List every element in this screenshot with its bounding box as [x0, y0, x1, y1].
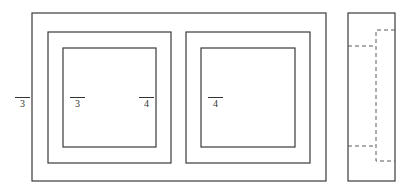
side-view-hidden-lines [348, 30, 395, 161]
section-label-3-outer: 3 [15, 97, 30, 109]
section-label-4-left: 4 [139, 97, 154, 109]
section-label-3-inner: 3 [70, 97, 85, 109]
window-elevation-drawing [0, 0, 407, 193]
right-sash-frame [186, 32, 310, 163]
section-label-4-right: 4 [208, 97, 223, 109]
side-view-frame [348, 13, 395, 181]
